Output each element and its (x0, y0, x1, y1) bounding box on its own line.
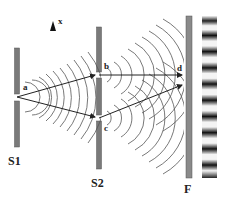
interference-fringes (202, 16, 217, 178)
barrier-label-s2: S2 (91, 177, 104, 189)
screen-label-f: F (184, 183, 191, 195)
point-label-b: b (104, 62, 109, 71)
point-label-d: d (177, 64, 182, 73)
screen-f (186, 16, 192, 178)
double-slit-diagram (0, 0, 234, 200)
barrier-label-s1: S1 (8, 155, 21, 167)
ray-a-to-b (17, 75, 95, 97)
barrier-s2 (97, 27, 102, 169)
wavefronts-from-a (25, 52, 104, 143)
point-label-a: a (23, 83, 28, 92)
axis-label-x: x (58, 17, 63, 26)
ray-a-to-c (17, 97, 95, 117)
up-arrow-icon (50, 21, 56, 31)
x-axis-indicator (50, 21, 56, 31)
point-label-c: c (104, 124, 108, 133)
